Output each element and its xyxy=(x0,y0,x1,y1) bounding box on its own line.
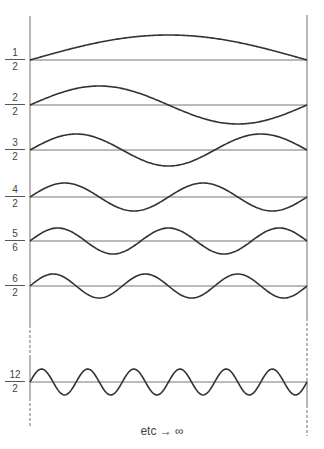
wave-curve xyxy=(30,35,307,60)
wave-mode-1 xyxy=(30,35,307,60)
label-numerator: 4 xyxy=(5,184,25,197)
wave-mode-3 xyxy=(30,134,307,166)
label-numerator: 1 xyxy=(5,47,25,60)
mode-label-1: 12 xyxy=(5,47,25,72)
mode-label-12: 122 xyxy=(5,369,25,394)
standing-waves-diagram xyxy=(0,0,324,449)
wave-mode-4 xyxy=(30,183,307,211)
wave-mode-6 xyxy=(30,274,307,298)
wave-mode-12 xyxy=(30,369,307,395)
label-numerator: 6 xyxy=(5,273,25,286)
label-numerator: 3 xyxy=(5,137,25,150)
mode-label-6: 62 xyxy=(5,273,25,298)
mode-label-4: 42 xyxy=(5,184,25,209)
label-denominator: 2 xyxy=(5,286,25,298)
label-denominator: 2 xyxy=(5,105,25,117)
label-numerator: 12 xyxy=(5,369,25,382)
label-denominator: 6 xyxy=(5,241,25,253)
label-denominator: 2 xyxy=(5,197,25,209)
wave-mode-2 xyxy=(30,86,307,124)
label-denominator: 2 xyxy=(5,60,25,72)
label-denominator: 2 xyxy=(5,150,25,162)
wave-mode-5 xyxy=(30,228,307,254)
mode-label-5: 56 xyxy=(5,228,25,253)
caption-etc-infinity: etc → ∞ xyxy=(0,424,324,438)
label-numerator: 2 xyxy=(5,92,25,105)
mode-label-2: 22 xyxy=(5,92,25,117)
mode-label-3: 32 xyxy=(5,137,25,162)
label-denominator: 2 xyxy=(5,382,25,394)
label-numerator: 5 xyxy=(5,228,25,241)
wave-modes xyxy=(30,35,307,395)
